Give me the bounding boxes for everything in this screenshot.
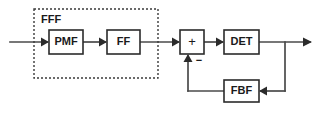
ff-to-sum-arrowhead: [172, 38, 180, 47]
block-ff[interactable]: FF: [107, 30, 140, 54]
det-label: DET: [231, 35, 253, 47]
sum-negative-arrowhead: [184, 54, 193, 62]
pmf-label: PMF: [54, 35, 78, 47]
fff-group-label: FFF: [41, 13, 61, 25]
diagram-svg: FFF PMF FF + − DET FBF: [0, 0, 320, 116]
input-arrowhead: [41, 38, 49, 47]
fbf-label: FBF: [231, 84, 253, 96]
ff-to-sum-wire: [140, 38, 180, 47]
pmf-to-ff-wire: [83, 38, 107, 47]
output-tap-to-fbf-wire: [259, 42, 285, 96]
pmf-to-ff-arrowhead: [99, 38, 107, 47]
plus-icon: +: [188, 34, 196, 49]
input-wire: [10, 38, 49, 47]
output-arrowhead: [303, 38, 312, 47]
block-diagram-canvas: FFF PMF FF + − DET FBF: [0, 0, 320, 116]
fbf-to-sum-wire: [184, 54, 225, 91]
block-summing-junction[interactable]: +: [180, 30, 204, 54]
minus-icon: −: [196, 54, 202, 66]
ff-label: FF: [117, 35, 131, 47]
fbf-input-arrowhead: [259, 87, 267, 96]
block-fbf[interactable]: FBF: [224, 80, 259, 102]
block-det[interactable]: DET: [224, 30, 259, 54]
sum-to-det-arrowhead: [216, 38, 224, 47]
sum-to-det-wire: [204, 38, 224, 47]
block-pmf[interactable]: PMF: [49, 30, 83, 54]
